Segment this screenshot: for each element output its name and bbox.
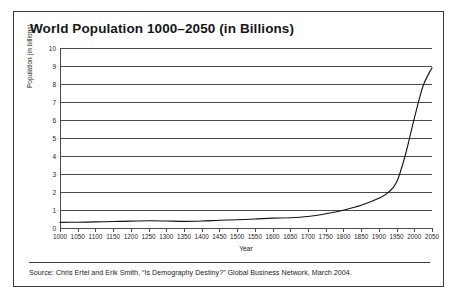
y-tick-label: 8 [52,81,56,88]
x-tick-label: 1550 [248,233,262,240]
x-tick-mark [131,228,132,232]
x-axis-tick-marks [60,228,432,232]
x-tick-mark [432,228,433,232]
x-tick-mark [290,228,291,232]
y-tick-label: 0 [52,225,56,232]
y-axis-label: Population (in billions) [26,0,33,88]
page-title: World Population 1000–2050 (in Billions) [30,21,294,36]
x-tick-mark [95,228,96,232]
x-tick-mark [60,228,61,232]
x-tick-mark [343,228,344,232]
x-tick-label: 1450 [212,233,226,240]
x-tick-label: 1700 [301,233,315,240]
x-tick-mark [397,228,398,232]
x-tick-mark [361,228,362,232]
y-tick-label: 5 [52,135,56,142]
source-divider [29,262,430,263]
plot-area [60,48,432,228]
x-tick-label: 1350 [177,233,191,240]
x-tick-label: 1600 [265,233,279,240]
source-caption: Source: Chris Ertel and Erik Smith, “Is … [29,268,352,277]
y-tick-label: 7 [52,99,56,106]
x-tick-label: 1900 [372,233,386,240]
x-tick-label: 1400 [195,233,209,240]
y-tick-label: 9 [52,63,56,70]
x-axis-tick-labels: 1000105011001150120012501300135014001450… [60,233,432,243]
x-tick-label: 1050 [71,233,85,240]
x-tick-label: 1300 [159,233,173,240]
x-tick-mark [273,228,274,232]
x-tick-label: 1950 [389,233,403,240]
x-tick-mark [414,228,415,232]
population-line-series [60,48,432,228]
x-tick-mark [255,228,256,232]
x-tick-mark [184,228,185,232]
x-tick-label: 1650 [283,233,297,240]
x-tick-mark [379,228,380,232]
y-axis-tick-labels: 012345678910 [40,48,58,228]
x-tick-mark [78,228,79,232]
x-tick-label: 1250 [141,233,155,240]
x-tick-label: 2050 [425,233,439,240]
x-tick-mark [166,228,167,232]
y-tick-label: 10 [49,45,56,52]
x-tick-label: 1100 [89,233,103,240]
x-tick-label: 1500 [230,233,244,240]
x-tick-label: 1850 [354,233,368,240]
x-tick-mark [113,228,114,232]
y-tick-label: 4 [52,153,56,160]
figure-frame: World Population 1000–2050 (in Billions)… [13,11,444,287]
x-tick-mark [202,228,203,232]
y-tick-label: 1 [52,207,56,214]
x-tick-label: 1150 [106,233,120,240]
chart-plot-block: Population (in billions) 012345678910 10… [30,48,432,258]
x-tick-label: 1000 [53,233,67,240]
x-tick-label: 1800 [336,233,350,240]
population-curve-path [60,68,432,223]
y-tick-label: 6 [52,117,56,124]
x-tick-mark [326,228,327,232]
x-tick-label: 1200 [124,233,138,240]
x-tick-label: 1750 [319,233,333,240]
x-axis-label: Year [60,245,432,252]
y-tick-label: 3 [52,171,56,178]
x-tick-mark [237,228,238,232]
x-tick-mark [219,228,220,232]
x-tick-mark [149,228,150,232]
x-tick-label: 2000 [407,233,421,240]
y-tick-label: 2 [52,189,56,196]
x-tick-mark [308,228,309,232]
